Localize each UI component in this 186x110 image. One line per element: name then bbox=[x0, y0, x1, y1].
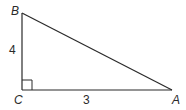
side-label-bc: 4 bbox=[9, 43, 16, 57]
side-ab-hypotenuse bbox=[22, 13, 172, 90]
side-label-ca: 3 bbox=[83, 93, 90, 107]
vertex-label-a: A bbox=[171, 93, 180, 107]
vertex-label-c: C bbox=[14, 93, 23, 107]
right-angle-marker-icon bbox=[22, 80, 32, 90]
triangle-diagram: B C A 4 3 bbox=[0, 0, 186, 110]
vertex-label-b: B bbox=[11, 4, 19, 18]
